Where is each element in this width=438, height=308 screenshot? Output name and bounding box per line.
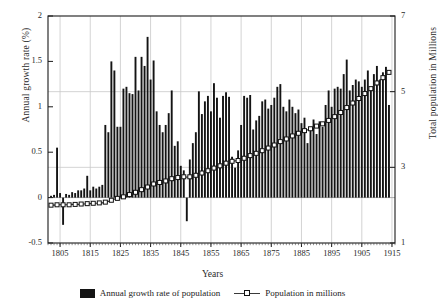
y-tick-left-1: 0 bbox=[16, 192, 42, 202]
y-tick-right-3: 7 bbox=[401, 10, 427, 20]
x-tick-5: 1855 bbox=[194, 248, 228, 258]
legend-item-growth-rate: Annual growth rate of population bbox=[80, 288, 220, 298]
x-tick-4: 1845 bbox=[164, 248, 198, 258]
y-axis-label-left: Annual growth rate (%) bbox=[21, 0, 31, 155]
x-tick-8: 1885 bbox=[284, 248, 318, 258]
line-square-marker-icon bbox=[234, 289, 260, 298]
x-tick-1: 1815 bbox=[73, 248, 107, 258]
chart-legend: Annual growth rate of population Populat… bbox=[0, 288, 425, 298]
x-tick-9: 1895 bbox=[315, 248, 349, 258]
x-tick-0: 1805 bbox=[43, 248, 77, 258]
legend-item-population: Population in millions bbox=[234, 288, 345, 298]
y-tick-left-3: 1 bbox=[16, 101, 42, 111]
x-tick-3: 1835 bbox=[134, 248, 168, 258]
y-tick-left-4: 1.5 bbox=[16, 55, 42, 65]
x-tick-7: 1875 bbox=[254, 248, 288, 258]
x-tick-11: 1915 bbox=[375, 248, 409, 258]
y-tick-right-1: 3 bbox=[401, 161, 427, 171]
y-tick-left-5: 2 bbox=[16, 10, 42, 20]
legend-label-population: Population in millions bbox=[265, 288, 345, 298]
y-tick-left-0: -0.5 bbox=[16, 237, 42, 247]
y-tick-right-0: 1 bbox=[401, 237, 427, 247]
x-tick-6: 1865 bbox=[224, 248, 258, 258]
x-tick-2: 1825 bbox=[103, 248, 137, 258]
legend-label-growth-rate: Annual growth rate of population bbox=[100, 288, 220, 298]
x-tick-10: 1905 bbox=[345, 248, 379, 258]
x-axis-label: Years bbox=[0, 269, 425, 279]
y-tick-left-2: 0.5 bbox=[16, 146, 42, 156]
bar-swatch-icon bbox=[80, 289, 95, 298]
y-tick-right-2: 5 bbox=[401, 86, 427, 96]
y-axis-label-right: Total population in Millions bbox=[428, 3, 438, 163]
